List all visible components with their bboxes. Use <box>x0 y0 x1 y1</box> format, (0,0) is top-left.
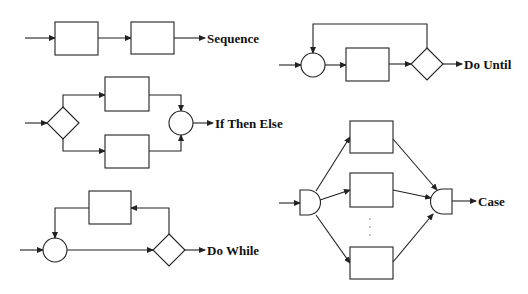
if-then-merge-arrow <box>149 95 181 111</box>
do-while-decision-diamond <box>153 234 185 266</box>
if-then-else-label: If Then Else <box>215 116 283 131</box>
case-branch-arrow-n <box>316 215 350 263</box>
do-while-label: Do While <box>207 243 259 258</box>
if-then-else-construct: If Then Else <box>25 77 283 168</box>
sequence-label: Sequence <box>207 31 259 46</box>
do-until-construct: Do Until <box>279 24 512 81</box>
case-ellipsis-dot <box>369 226 371 228</box>
flowchart-canvas: Sequence Do Until If Then Else <box>0 0 528 294</box>
case-construct: Case <box>279 121 505 279</box>
case-merge-arrow-n <box>393 214 433 262</box>
case-branch-arrow-1 <box>316 137 350 191</box>
do-until-junction-circle <box>301 53 325 77</box>
if-junction-circle <box>169 111 193 135</box>
do-until-label: Do Until <box>464 57 512 72</box>
if-decision-diamond <box>47 107 79 139</box>
do-while-true-branch-arrow <box>131 208 169 234</box>
case-process-box-1 <box>350 121 393 153</box>
do-while-process-box <box>89 191 131 224</box>
if-else-branch-arrow <box>63 139 105 151</box>
sequence-process-box-2 <box>131 22 174 54</box>
sequence-construct: Sequence <box>25 22 259 55</box>
do-while-junction-circle <box>43 238 67 262</box>
do-until-process-box <box>346 48 389 81</box>
case-process-box-n <box>350 247 393 279</box>
case-collector-shape <box>431 189 452 214</box>
case-process-box-2 <box>350 173 393 207</box>
if-then-process-box <box>105 77 149 111</box>
case-merge-arrow-1 <box>393 139 437 190</box>
do-while-construct: Do While <box>20 191 259 266</box>
do-while-loop-back-arrow <box>55 208 89 238</box>
case-ellipsis-dot <box>369 234 371 236</box>
if-else-merge-arrow <box>149 135 181 151</box>
case-branch-arrow-2 <box>320 190 350 200</box>
case-label: Case <box>478 194 505 209</box>
if-else-process-box <box>105 135 149 168</box>
case-ellipsis-dot <box>369 218 371 220</box>
do-until-decision-diamond <box>411 48 443 80</box>
sequence-process-box-1 <box>55 22 98 55</box>
case-selector-shape <box>300 190 320 215</box>
case-merge-arrow-2 <box>393 190 431 198</box>
if-then-branch-arrow <box>63 95 105 107</box>
